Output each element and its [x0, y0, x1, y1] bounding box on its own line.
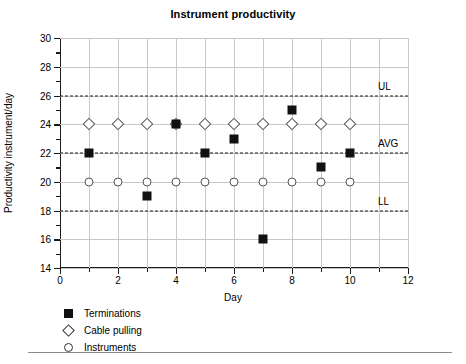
- chart-legend: TerminationsCable pullingInstruments: [58, 306, 142, 354]
- legend-item-terminations: Terminations: [58, 306, 142, 320]
- x-axis-tick: [118, 268, 119, 274]
- x-axis-tick: [60, 268, 61, 274]
- x-axis-minor-tick: [321, 268, 322, 272]
- reference-line-ul: [60, 95, 408, 96]
- data-point-instruments: [201, 177, 210, 186]
- x-axis-minor-tick: [379, 268, 380, 272]
- x-axis-tick: [234, 268, 235, 274]
- x-axis-tick: [350, 268, 351, 274]
- x-axis-tick-label: 12: [402, 275, 413, 286]
- reference-line-avg: [60, 153, 408, 154]
- x-axis-tick-label: 6: [231, 275, 237, 286]
- legend-item-label: Terminations: [84, 308, 141, 319]
- data-point-instruments: [288, 177, 297, 186]
- x-axis-title: Day: [0, 292, 466, 303]
- data-point-terminations: [143, 192, 152, 201]
- y-axis-tick-label: 28: [40, 61, 51, 72]
- y-axis-tick: [54, 38, 60, 39]
- y-axis-minor-tick: [56, 196, 60, 197]
- gridline-vertical: [408, 38, 409, 268]
- legend-item-label: Instruments: [84, 342, 136, 353]
- x-axis-tick-label: 4: [173, 275, 179, 286]
- plot-area: 141618202224262830024681012 ULAVGLL: [60, 38, 408, 268]
- y-axis-minor-tick: [56, 167, 60, 168]
- legend-marker-icon: [58, 324, 78, 336]
- y-axis-tick-label: 30: [40, 33, 51, 44]
- x-axis-tick-label: 10: [344, 275, 355, 286]
- bottom-divider: [28, 352, 452, 353]
- reference-line-label-ul: UL: [378, 81, 391, 92]
- data-point-instruments: [114, 177, 123, 186]
- y-axis-tick: [54, 124, 60, 125]
- y-axis-minor-tick: [56, 52, 60, 53]
- y-axis-tick-label: 24: [40, 119, 51, 130]
- y-axis-tick: [54, 239, 60, 240]
- data-point-terminations: [172, 120, 181, 129]
- open-diamond-icon: [62, 324, 75, 337]
- reference-line-label-ll: LL: [378, 196, 389, 207]
- data-point-instruments: [346, 177, 355, 186]
- y-axis-minor-tick: [56, 81, 60, 82]
- data-point-terminations: [317, 163, 326, 172]
- y-axis-tick-label: 14: [40, 263, 51, 274]
- data-point-terminations: [259, 235, 268, 244]
- data-point-terminations: [288, 105, 297, 114]
- open-circle-icon: [64, 343, 73, 352]
- x-axis-minor-tick: [89, 268, 90, 272]
- data-point-instruments: [230, 177, 239, 186]
- chart-title: Instrument productivity: [0, 8, 466, 20]
- y-axis-minor-tick: [56, 139, 60, 140]
- x-axis-minor-tick: [263, 268, 264, 272]
- y-axis-tick: [54, 67, 60, 68]
- reference-line-label-avg: AVG: [378, 138, 398, 149]
- y-axis-tick: [54, 182, 60, 183]
- reference-line-ll: [60, 210, 408, 211]
- chart-container: Instrument productivity Productivity ins…: [0, 0, 466, 364]
- x-axis-tick: [408, 268, 409, 274]
- y-axis-tick-label: 22: [40, 148, 51, 159]
- data-point-instruments: [143, 177, 152, 186]
- y-axis-tick-label: 18: [40, 205, 51, 216]
- data-point-instruments: [317, 177, 326, 186]
- y-axis-minor-tick: [56, 225, 60, 226]
- y-axis-title: Productivity instrument/day: [3, 93, 14, 213]
- x-axis-tick-label: 0: [57, 275, 63, 286]
- y-axis-tick-label: 26: [40, 90, 51, 101]
- data-point-instruments: [172, 177, 181, 186]
- y-axis-tick-label: 16: [40, 234, 51, 245]
- legend-item-cable-pulling: Cable pulling: [58, 323, 142, 337]
- data-point-terminations: [230, 134, 239, 143]
- data-point-terminations: [201, 149, 210, 158]
- filled-square-icon: [64, 309, 73, 318]
- x-axis-minor-tick: [205, 268, 206, 272]
- y-axis-minor-tick: [56, 110, 60, 111]
- x-axis-minor-tick: [147, 268, 148, 272]
- data-point-terminations: [346, 149, 355, 158]
- x-axis-tick-label: 8: [289, 275, 295, 286]
- data-point-instruments: [259, 177, 268, 186]
- x-axis-tick-label: 2: [115, 275, 121, 286]
- data-point-instruments: [85, 177, 94, 186]
- y-axis-minor-tick: [56, 254, 60, 255]
- x-axis-tick: [292, 268, 293, 274]
- legend-marker-icon: [58, 307, 78, 319]
- legend-item-label: Cable pulling: [84, 325, 142, 336]
- x-axis-tick: [176, 268, 177, 274]
- data-point-terminations: [85, 149, 94, 158]
- y-axis-tick-label: 20: [40, 176, 51, 187]
